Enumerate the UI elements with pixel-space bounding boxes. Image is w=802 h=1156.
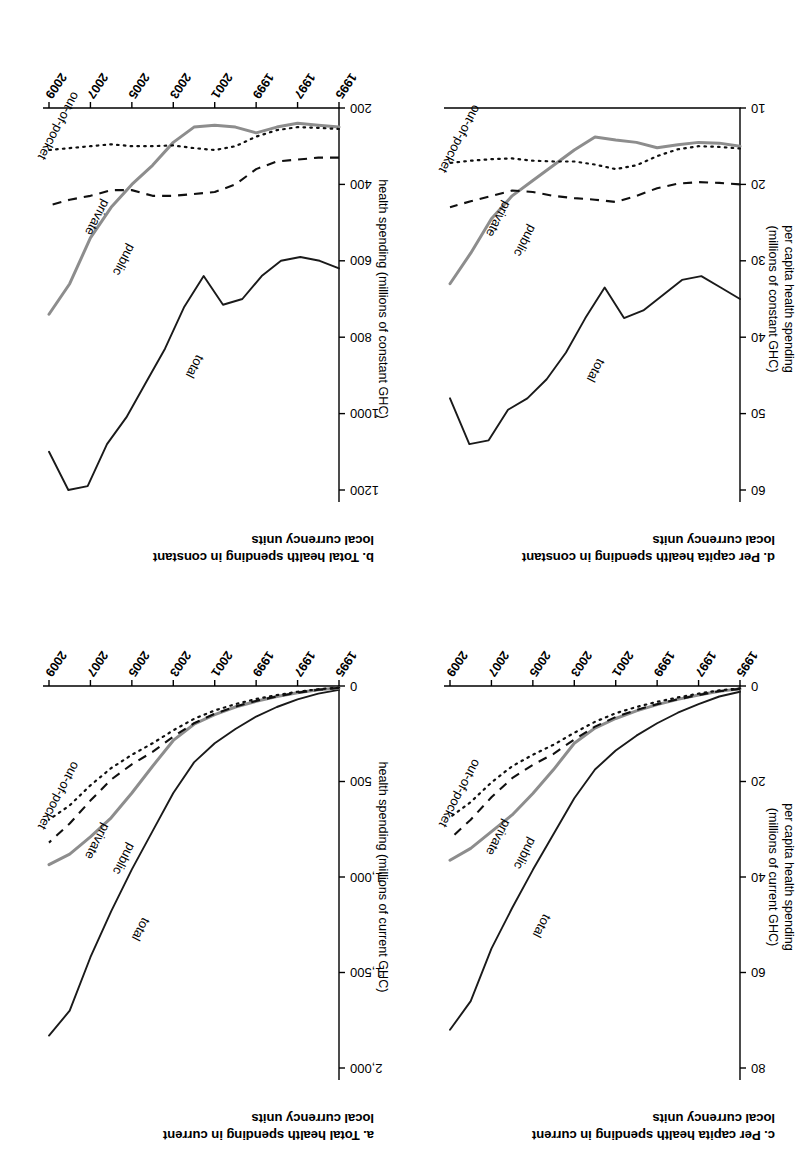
y-tick-label: 80 xyxy=(751,1061,765,1076)
x-tick-label: 2009 xyxy=(42,648,69,679)
axis-lines xyxy=(444,686,740,1080)
x-tick-label: 2001 xyxy=(609,648,636,679)
x-tick-label: 2009 xyxy=(42,70,69,101)
panel-b-chart: 2004006008001000120019951997199920012003… xyxy=(0,0,401,578)
y-tick-label: 400 xyxy=(350,177,372,192)
y-axis-title: health spending (millions of current GHC… xyxy=(376,762,390,993)
y-tick-label: 0 xyxy=(751,679,758,694)
panel-b: b. Total health spending in constant loc… xyxy=(0,0,401,578)
x-tick-label: 2003 xyxy=(568,648,595,679)
axis-lines xyxy=(43,108,339,502)
series-label-oop: out-of-pocket xyxy=(436,757,485,830)
x-tick-label: 2009 xyxy=(443,648,470,679)
x-tick-label: 1995 xyxy=(733,648,760,679)
x-tick-label: 2007 xyxy=(485,648,512,679)
y-tick-label: 600 xyxy=(350,253,372,268)
panel-d-plot: 1020304050601995199719992001200320052007… xyxy=(401,70,796,502)
x-tick-label: 2005 xyxy=(526,648,553,679)
panel-a-chart: 05001,0001,5002,000199519971999200120032… xyxy=(0,578,401,1156)
series-line-private xyxy=(49,158,339,206)
panel-d: d. Per capita health spending in constan… xyxy=(401,0,802,578)
y-axis-title-line2: (millions of current GHC) xyxy=(766,808,780,947)
series-line-total xyxy=(49,690,339,1036)
y-axis-title-line1: per capita health spending xyxy=(782,225,796,373)
y-tick-label: 2,000 xyxy=(350,1061,383,1076)
y-tick-label: 40 xyxy=(751,870,765,885)
x-tick-label: 2005 xyxy=(125,648,152,679)
series-label-total: total xyxy=(530,912,555,940)
four-panel-figure: a. Total health spending in current loca… xyxy=(0,0,802,1156)
x-tick-label: 1999 xyxy=(250,70,277,101)
panel-d-chart: 1020304050601995199719992001200320052007… xyxy=(401,0,802,578)
series-line-out-of-pocket xyxy=(450,146,740,169)
x-tick-label: 1995 xyxy=(332,648,359,679)
y-tick-label: 30 xyxy=(751,253,765,268)
x-tick-label: 2007 xyxy=(84,648,111,679)
y-tick-label: 1000 xyxy=(350,406,379,421)
x-tick-label: 2003 xyxy=(167,648,194,679)
y-tick-label: 60 xyxy=(751,965,765,980)
axis-lines xyxy=(444,108,740,502)
y-axis-title-line1: per capita health spending xyxy=(782,803,796,951)
x-tick-label: 1997 xyxy=(291,70,318,101)
x-tick-label: 1997 xyxy=(291,648,318,679)
y-tick-label: 500 xyxy=(350,774,372,789)
y-tick-label: 0 xyxy=(350,679,357,694)
series-line-private xyxy=(49,688,339,843)
y-axis-title-line2: (millions of constant GHC) xyxy=(766,226,780,373)
y-tick-label: 10 xyxy=(751,101,765,116)
series-label-public: public xyxy=(110,841,139,878)
series-line-out-of-pocket xyxy=(49,127,339,150)
series-line-total xyxy=(450,692,740,1030)
axis-lines xyxy=(43,686,339,1080)
series-label-public: public xyxy=(110,242,139,279)
y-tick-label: 20 xyxy=(751,774,765,789)
y-tick-label: 40 xyxy=(751,330,765,345)
series-label-total: total xyxy=(584,356,609,384)
panel-a-plot: 05001,0001,5002,000199519971999200120032… xyxy=(35,648,390,1080)
series-line-private xyxy=(450,182,740,207)
x-tick-label: 2001 xyxy=(208,70,235,101)
x-tick-label: 1995 xyxy=(332,70,359,101)
panel-c-chart: 0204060801995199719992001200320052007200… xyxy=(401,578,802,1156)
y-tick-label: 800 xyxy=(350,330,372,345)
x-tick-label: 1997 xyxy=(692,648,719,679)
y-tick-label: 20 xyxy=(751,177,765,192)
x-tick-label: 1999 xyxy=(651,648,678,679)
series-line-out-of-pocket xyxy=(450,688,740,817)
series-label-private: private xyxy=(483,199,514,240)
y-tick-label: 1200 xyxy=(350,483,379,498)
panel-a: a. Total health spending in current loca… xyxy=(0,578,401,1156)
y-tick-label: 200 xyxy=(350,101,372,116)
series-label-private: private xyxy=(483,817,514,858)
figure-canvas: a. Total health spending in current loca… xyxy=(0,0,802,1156)
y-tick-label: 50 xyxy=(751,406,765,421)
panel-c-plot: 0204060801995199719992001200320052007200… xyxy=(436,648,796,1080)
y-tick-label: 60 xyxy=(751,483,765,498)
series-label-oop: out-of-pocket xyxy=(35,759,84,832)
series-label-public: public xyxy=(511,223,540,260)
series-label-oop: out-of-pocket xyxy=(436,103,485,176)
series-label-private: private xyxy=(82,197,113,238)
series-label-oop: out-of-pocket xyxy=(35,90,84,163)
x-tick-label: 2007 xyxy=(84,70,111,101)
series-label-total: total xyxy=(183,353,208,381)
x-tick-label: 2001 xyxy=(208,648,235,679)
x-tick-label: 2003 xyxy=(167,70,194,101)
series-line-private xyxy=(450,689,740,839)
y-axis-title: health spending (millions of constant GH… xyxy=(376,179,390,418)
panel-c: c. Per capita health spending in current… xyxy=(401,578,802,1156)
x-tick-label: 1999 xyxy=(250,648,277,679)
panel-b-plot: 2004006008001000120019951997199920012003… xyxy=(35,70,390,502)
series-label-total: total xyxy=(129,915,154,943)
x-tick-label: 2005 xyxy=(125,70,152,101)
